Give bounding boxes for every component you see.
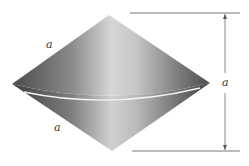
label-upper-slant: a: [46, 38, 53, 51]
label-lower-slant: a: [54, 121, 61, 134]
arrow-up-icon: [223, 14, 227, 19]
label-height: a: [222, 76, 229, 89]
upper-cone: [12, 15, 210, 96]
arrow-down-icon: [223, 145, 227, 150]
double-cone-figure: a a a: [0, 0, 249, 166]
